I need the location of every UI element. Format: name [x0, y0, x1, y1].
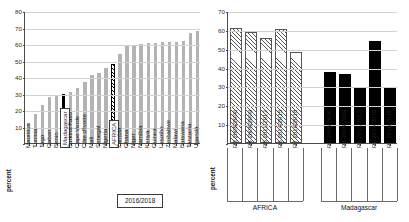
label-separator: [257, 148, 258, 201]
x-round-label: R3 2005/2006: [326, 110, 332, 148]
y-tick-label: 50: [15, 59, 22, 65]
left-chart-panel: 1020304050607080 percent MauritiusTunisi…: [0, 0, 205, 222]
group-baseline: [227, 201, 303, 202]
label-separator: [382, 148, 383, 201]
label-separator: [303, 148, 304, 201]
gridline: [25, 78, 200, 79]
x-round-label: R4 2008/2009: [247, 110, 253, 148]
y-tick-mark: [226, 12, 228, 13]
x-round-label: R5 2011/2013: [356, 110, 362, 148]
y-tick-mark: [226, 87, 228, 88]
right-chart-panel: 10203040506070 percent R3 2005/2006R4 20…: [205, 0, 409, 222]
x-category-label: Nigeria: [102, 129, 108, 148]
label-separator: [227, 148, 228, 201]
left-y-axis-title: percent: [6, 169, 12, 192]
gridline: [228, 50, 397, 51]
label-separator: [242, 148, 243, 201]
x-category-label: Togo: [39, 135, 45, 148]
gridline: [228, 69, 397, 70]
label-separator: [288, 148, 289, 201]
x-category-label: Benin: [53, 132, 59, 148]
y-tick-mark: [226, 106, 228, 107]
y-tick-label: 70: [15, 26, 22, 32]
x-category-label: Mauritius: [25, 123, 31, 148]
y-tick-mark: [23, 111, 25, 112]
label-separator: [397, 148, 398, 201]
y-tick-mark: [23, 29, 25, 30]
y-tick-mark: [226, 50, 228, 51]
gridline: [228, 87, 397, 88]
gridline: [25, 95, 200, 96]
y-tick-mark: [23, 95, 25, 96]
gridline: [25, 45, 200, 46]
x-round-label: R7 2016/2018: [292, 110, 298, 148]
y-tick-label: 40: [15, 75, 22, 81]
y-tick-label: 40: [218, 66, 225, 72]
y-tick-label: 20: [218, 103, 225, 109]
y-tick-mark: [23, 78, 25, 79]
x-round-label: R4 2008/2009: [341, 110, 347, 148]
x-category-label: Uganda: [193, 127, 199, 148]
x-round-label: R3 2005/2006: [232, 110, 238, 148]
y-tick-label: 10: [218, 122, 225, 128]
x-round-label: R5 2011/2013: [262, 110, 268, 148]
y-tick-label: 30: [15, 92, 22, 98]
group-name-madagascar: Madagascar: [321, 205, 397, 212]
gridline: [228, 31, 397, 32]
y-tick-mark: [23, 62, 25, 63]
figure-root: 1020304050607080 percent MauritiusTunisi…: [0, 0, 409, 222]
x-category-label: Gabon: [46, 130, 52, 148]
y-tick-label: 30: [218, 84, 225, 90]
y-tick-label: 70: [218, 9, 225, 15]
x-round-label: R6 2014/2015: [371, 110, 377, 148]
y-tick-label: 60: [15, 42, 22, 48]
period-legend: 2016/2018: [117, 194, 163, 208]
y-tick-mark: [226, 31, 228, 32]
gridline: [25, 29, 200, 30]
y-tick-mark: [226, 125, 228, 126]
label-separator: [367, 148, 368, 201]
group-baseline: [321, 201, 397, 202]
gridline: [25, 12, 200, 13]
label-separator: [321, 148, 322, 201]
x-round-label: R6 2014/2015: [277, 110, 283, 148]
y-tick-label: 10: [15, 125, 22, 131]
x-round-label: R7 2016/2018: [386, 110, 392, 148]
y-tick-mark: [23, 45, 25, 46]
right-y-axis-title: percent: [210, 167, 216, 190]
y-tick-mark: [226, 69, 228, 70]
x-category-label: Tunisia: [32, 129, 38, 148]
gridline: [228, 106, 397, 107]
gridline: [228, 12, 397, 13]
y-tick-label: 80: [15, 9, 22, 15]
y-tick-label: 50: [218, 47, 225, 53]
y-tick-label: 20: [15, 108, 22, 114]
y-tick-label: 60: [218, 28, 225, 34]
label-separator: [336, 148, 337, 201]
label-separator: [273, 148, 274, 201]
y-tick-mark: [23, 12, 25, 13]
label-separator: [351, 148, 352, 201]
gridline: [25, 62, 200, 63]
y-tick-mark: [226, 144, 228, 145]
gridline: [25, 111, 200, 112]
group-name-africa: AFRICA: [227, 205, 303, 212]
